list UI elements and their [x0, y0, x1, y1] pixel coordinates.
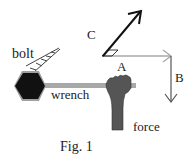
arrow-c-label: C	[87, 27, 96, 42]
arrow-b-label: B	[175, 70, 184, 85]
wrench-torque-diagram: bolt wrench force A B C Fig. 1	[0, 0, 192, 158]
bolt-label: bolt	[12, 46, 34, 61]
force-label: force	[133, 119, 160, 134]
wrench-label: wrench	[51, 87, 90, 102]
arrow-a-label: A	[117, 59, 127, 74]
hand-fist-icon	[106, 75, 131, 130]
figure-caption: Fig. 1	[60, 139, 93, 154]
arrow-c-icon	[103, 11, 141, 56]
